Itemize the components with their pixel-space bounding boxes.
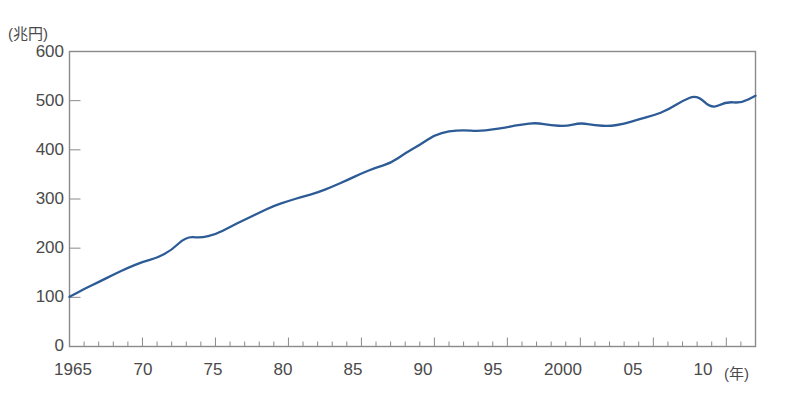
chart-container: (兆円) (年) 600 500 400 300 200 100 0 1965 … — [0, 0, 787, 399]
axis-frame — [70, 52, 756, 347]
plot-area — [0, 0, 787, 399]
x-axis-minor-ticks — [70, 338, 756, 347]
y-axis-major-ticks — [70, 101, 81, 298]
data-series-line — [70, 96, 756, 297]
